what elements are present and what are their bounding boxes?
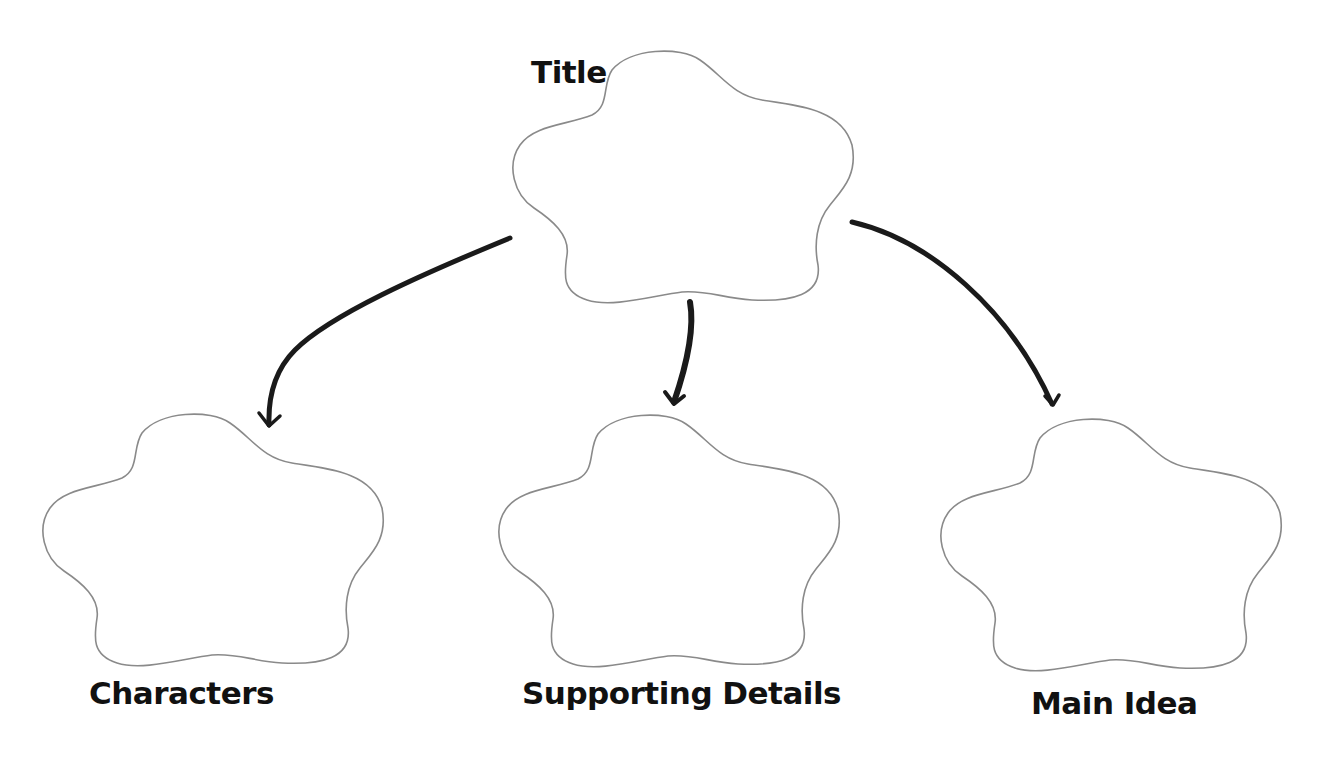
- flower-node-characters[interactable]: [43, 414, 383, 666]
- node-label-main-idea: Main Idea: [1031, 685, 1197, 721]
- diagram-canvas: [0, 0, 1325, 766]
- node-label-characters: Characters: [89, 675, 274, 711]
- arrow-title-to-characters: [259, 238, 510, 426]
- flower-node-main-idea[interactable]: [941, 419, 1281, 671]
- arrow-title-to-supporting-details: [665, 302, 691, 404]
- arrow-title-to-main-idea: [852, 222, 1059, 405]
- node-label-title: Title: [531, 54, 607, 90]
- flower-node-supporting-details[interactable]: [499, 415, 839, 667]
- node-label-supporting-details: Supporting Details: [522, 675, 841, 711]
